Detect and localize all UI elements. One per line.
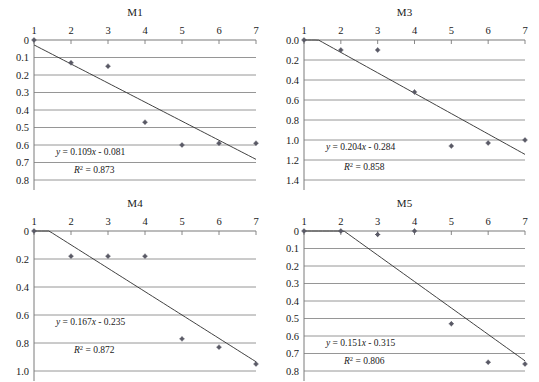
x-tick-label: 2 [68,216,73,227]
data-point [68,254,73,259]
data-point [338,228,343,233]
y-tick-label: 0.4 [286,75,300,86]
x-tick-label: 3 [375,25,380,36]
x-tick-label: 5 [179,25,184,36]
data-point [375,47,380,52]
data-point [375,232,380,237]
chart-panel-m1: M1 00.10.20.30.40.50.60.70.81234567y = 0… [0,0,270,191]
y-tick-label: 0 [24,35,29,46]
chart-figure: M1 00.10.20.30.40.50.60.70.81234567y = 0… [0,0,539,382]
data-point [105,64,110,69]
y-tick-label: 0.2 [16,70,29,81]
data-point [253,361,258,366]
x-tick-label: 5 [179,216,184,227]
x-tick-label: 2 [338,25,343,36]
equation-label: y = 0.109x - 0.081 [55,147,125,157]
x-tick-label: 5 [449,216,454,227]
y-tick-label: 1.2 [286,155,299,166]
chart-panel-m5: M5 00.10.20.30.40.50.60.70.81234567y = 0… [270,191,539,382]
x-tick-label: 6 [216,216,221,227]
x-tick-label: 6 [486,216,491,227]
x-tick-label: 1 [301,25,306,36]
y-tick-label: 0 [24,226,29,237]
data-point [486,360,491,365]
r-squared-label: R2 = 0.872 [73,344,115,356]
y-tick-label: 0 [294,226,299,237]
y-tick-label: 0.6 [16,310,29,321]
data-point [301,228,306,233]
data-point [486,140,491,145]
r-squared-label: R2 = 0.806 [343,354,385,366]
equation-label: y = 0.151x - 0.315 [325,338,395,348]
x-tick-label: 6 [216,25,221,36]
x-tick-label: 2 [338,216,343,227]
y-tick-label: 0.6 [286,95,299,106]
y-tick-label: 1.0 [286,135,299,146]
y-tick-label: 0.6 [286,331,299,342]
y-tick-label: 0.3 [286,278,299,289]
y-tick-label: 0.5 [286,313,299,324]
y-tick-label: 0.2 [286,261,299,272]
x-tick-label: 4 [412,216,418,227]
data-point [301,37,306,42]
data-point [179,336,184,341]
y-tick-label: 0.6 [16,140,29,151]
equation-label: y = 0.167x - 0.235 [55,317,125,327]
x-tick-label: 4 [142,25,148,36]
y-tick-label: 1.0 [16,366,29,377]
chart-plot-m5: 00.10.20.30.40.50.60.70.81234567y = 0.15… [270,191,539,382]
y-tick-label: 0.0 [286,35,299,46]
x-tick-label: 7 [253,216,258,227]
y-tick-label: 0.7 [286,348,299,359]
data-point [412,228,417,233]
x-tick-label: 3 [105,216,110,227]
y-tick-label: 0.2 [16,254,29,265]
y-tick-label: 0.8 [16,175,29,186]
data-point [522,137,527,142]
r-squared-label: R2 = 0.858 [343,161,385,173]
x-tick-label: 7 [522,216,527,227]
x-tick-label: 3 [105,25,110,36]
x-tick-label: 4 [412,25,418,36]
chart-plot-m4: 00.20.40.60.81.01234567y = 0.167x - 0.23… [0,191,270,382]
y-tick-label: 0.4 [286,296,300,307]
trend-line [34,45,256,159]
x-tick-label: 6 [486,25,491,36]
x-tick-label: 3 [375,216,380,227]
y-tick-label: 0.1 [16,52,29,63]
y-tick-label: 0.1 [286,243,299,254]
data-point [179,142,184,147]
data-point [142,120,147,125]
y-tick-label: 0.3 [16,87,29,98]
trend-line [34,231,256,362]
y-tick-label: 0.2 [286,55,299,66]
chart-plot-m1: 00.10.20.30.40.50.60.70.81234567y = 0.10… [0,0,270,191]
data-point [449,321,454,326]
x-tick-label: 1 [31,216,36,227]
y-tick-label: 0.8 [286,115,299,126]
x-tick-label: 4 [142,216,148,227]
y-tick-label: 0.7 [16,157,29,168]
equation-label: y = 0.204x - 0.284 [325,142,395,152]
data-point [142,254,147,259]
chart-panel-m3: M3 0.00.20.40.60.81.01.21.41234567y = 0.… [270,0,539,191]
data-point [31,37,36,42]
x-tick-label: 5 [449,25,454,36]
data-point [449,143,454,148]
chart-plot-m3: 0.00.20.40.60.81.01.21.41234567y = 0.204… [270,0,539,191]
y-tick-label: 0.5 [16,122,29,133]
x-tick-label: 7 [522,25,527,36]
y-tick-label: 0.8 [16,338,29,349]
trend-line [304,40,525,154]
data-point [216,345,221,350]
x-tick-label: 2 [68,25,73,36]
y-tick-label: 0.4 [16,105,30,116]
x-tick-label: 1 [31,25,36,36]
r-squared-label: R2 = 0.873 [73,163,115,175]
y-tick-label: 1.4 [286,175,300,186]
y-tick-label: 0.4 [16,282,30,293]
chart-panel-m4: M4 00.20.40.60.81.01234567y = 0.167x - 0… [0,191,270,382]
data-point [31,228,36,233]
data-point [522,361,527,366]
x-tick-label: 7 [253,25,258,36]
